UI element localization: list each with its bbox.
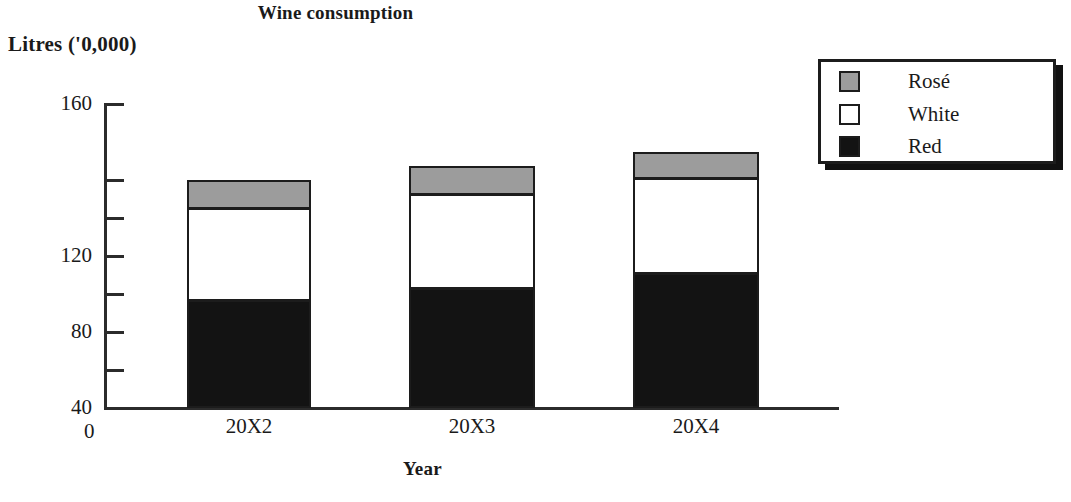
y-tick-label-120-text: 120 <box>61 245 93 266</box>
bar-segment-rose-20X2[interactable] <box>187 180 311 209</box>
x-tick-label-20X2: 20X2 <box>187 416 311 437</box>
y-tick-160 <box>107 103 124 106</box>
y-tick-100 <box>107 293 124 296</box>
x-tick-label-20X3: 20X3 <box>409 416 535 437</box>
x-axis-title: Year <box>0 458 845 480</box>
y-tick-60 <box>107 369 124 372</box>
red-swatch-icon <box>839 136 860 157</box>
y-tick-label-120: 120 <box>20 245 92 267</box>
legend-item-rose[interactable]: Rosé <box>821 65 1053 98</box>
bar-20X3[interactable] <box>409 166 535 408</box>
bar-segment-red-20X2[interactable] <box>187 300 311 408</box>
y-origin-label: 0 <box>84 421 95 442</box>
bar-segment-white-20X4[interactable] <box>633 178 759 274</box>
bar-20X4[interactable] <box>633 152 759 408</box>
y-tick-label-160-text: 160 <box>61 93 93 114</box>
y-tick-label-80-text: 80 <box>71 321 92 342</box>
legend-item-white[interactable]: White <box>821 98 1053 131</box>
bar-segment-white-20X2[interactable] <box>187 208 311 301</box>
legend-label-white: White <box>908 104 959 125</box>
rose-swatch-icon <box>839 71 860 92</box>
y-tick-120 <box>107 255 124 258</box>
bar-segment-rose-20X4[interactable] <box>633 152 759 179</box>
y-tick-80 <box>107 331 124 334</box>
x-tick-label-20X4: 20X4 <box>633 416 759 437</box>
legend-label-red: Red <box>908 136 942 157</box>
chart-legend: Rosé White Red <box>818 59 1056 164</box>
bar-segment-white-20X3[interactable] <box>409 194 535 289</box>
y-tick-label-160: 160 <box>20 93 92 115</box>
legend-label-rose: Rosé <box>908 71 950 92</box>
bar-20X2[interactable] <box>187 180 311 408</box>
white-swatch-icon <box>839 104 860 125</box>
bar-segment-rose-20X3[interactable] <box>409 166 535 195</box>
y-tick-label-80: 80 <box>20 321 92 343</box>
y-tick-label-40-text: 40 <box>71 397 92 418</box>
y-tick-130 <box>107 217 124 220</box>
y-tick-label-40: 40 <box>20 397 92 419</box>
bar-segment-red-20X3[interactable] <box>409 288 535 408</box>
bar-segment-red-20X4[interactable] <box>633 273 759 408</box>
y-tick-140 <box>107 179 124 182</box>
legend-item-red[interactable]: Red <box>821 130 1053 163</box>
